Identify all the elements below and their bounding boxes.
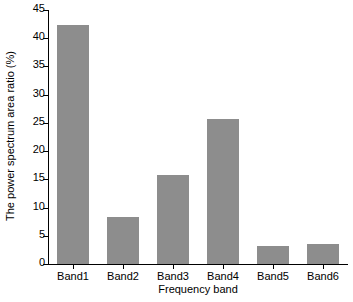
x-tick-mark xyxy=(273,265,274,269)
y-tick-label: 10 xyxy=(33,200,45,212)
y-tick-label: 40 xyxy=(33,30,45,42)
x-tick-mark xyxy=(223,265,224,269)
y-tick-label: 15 xyxy=(33,171,45,183)
x-tick-mark xyxy=(73,265,74,269)
y-tick-label: 35 xyxy=(33,58,45,70)
bar xyxy=(307,244,339,264)
y-tick-label: 0 xyxy=(39,256,45,268)
bar xyxy=(207,119,239,264)
bar xyxy=(57,25,89,264)
x-category-label: Band3 xyxy=(148,270,198,282)
x-axis-title: Frequency band xyxy=(48,283,348,295)
y-tick-label: 25 xyxy=(33,115,45,127)
x-category-label: Band1 xyxy=(48,270,98,282)
x-category-label: Band4 xyxy=(198,270,248,282)
y-tick-label: 5 xyxy=(39,228,45,240)
bar-chart-figure: The power spectrum area ratio (%) 051015… xyxy=(0,0,353,302)
bar xyxy=(257,246,289,264)
plot-area: 051015202530354045 Band1Band2Band3Band4B… xyxy=(48,10,348,265)
y-axis-title: The power spectrum area ratio (%) xyxy=(2,2,18,270)
y-axis-line xyxy=(48,10,49,265)
x-category-label: Band5 xyxy=(248,270,298,282)
y-tick-label: 45 xyxy=(33,2,45,14)
x-category-label: Band2 xyxy=(98,270,148,282)
x-axis-line xyxy=(48,264,348,265)
x-category-label: Band6 xyxy=(298,270,348,282)
y-tick-label: 30 xyxy=(33,87,45,99)
x-tick-mark xyxy=(123,265,124,269)
bar xyxy=(157,175,189,264)
y-tick-label: 20 xyxy=(33,143,45,155)
x-tick-mark xyxy=(323,265,324,269)
x-tick-mark xyxy=(173,265,174,269)
bar xyxy=(107,217,139,264)
